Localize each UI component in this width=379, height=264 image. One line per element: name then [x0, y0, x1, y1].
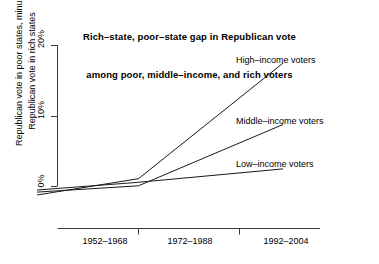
series-line-high-income	[37, 63, 283, 195]
series-label-low-income: Low–income voters	[236, 159, 314, 169]
series-label-middle-income: Middle–income voters	[236, 116, 324, 126]
series-line-low-income	[37, 169, 283, 190]
plot-area	[0, 0, 379, 264]
series-lines	[37, 63, 283, 195]
series-label-high-income: High–income voters	[236, 55, 316, 65]
chart-figure: Rich–state, poor–state gap in Republican…	[0, 0, 379, 264]
